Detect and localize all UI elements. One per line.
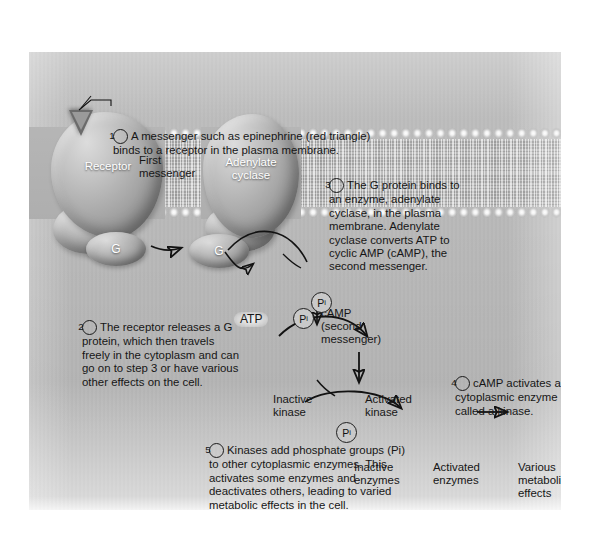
step-text-2: The receptor releases a G protein, which… bbox=[82, 321, 239, 387]
phosphate-subscript-1: i bbox=[306, 314, 308, 323]
phosphate-letter-1: P bbox=[299, 313, 306, 325]
step-number-1: 1 bbox=[113, 129, 128, 144]
first-messenger-label: First messenger bbox=[139, 154, 195, 180]
inactive-kinase-label: Inactive kinase bbox=[273, 393, 312, 419]
figure-canvas: Receptor Adenylate cyclase G G bbox=[0, 0, 597, 560]
phosphate-token-2: Pi bbox=[311, 292, 332, 313]
step-callout-1: 1A messenger such as epinephrine (red tr… bbox=[96, 116, 381, 158]
step-text-5: Kinases add phosphate groups (Pi) to oth… bbox=[209, 444, 405, 510]
various-metabolic-effects-label: Various metabolic effects bbox=[518, 461, 561, 501]
phosphate-token-1: Pi bbox=[293, 308, 314, 329]
step-callout-3: 3The G protein binds to an enzyme, adeny… bbox=[312, 165, 461, 274]
camp-label: cAMP (second messenger) bbox=[321, 307, 381, 347]
leader-step1 bbox=[81, 96, 91, 108]
arrow-g-to-adenylate bbox=[283, 254, 301, 268]
step-callout-4: 4cAMP activates a cytoplasmic enzyme cal… bbox=[438, 363, 561, 418]
phosphate-letter-2: P bbox=[317, 297, 324, 309]
step-text-3: The G protein binds to an enzyme, adenyl… bbox=[329, 179, 460, 272]
step-number-5: 5 bbox=[209, 443, 224, 458]
diagram-plate: Receptor Adenylate cyclase G G bbox=[29, 52, 561, 510]
step-text-1: A messenger such as epinephrine (red tri… bbox=[113, 130, 370, 156]
activated-kinase-label: Activated kinase bbox=[365, 393, 412, 419]
step-text-4: cAMP activates a cytoplasmic enzyme call… bbox=[455, 377, 561, 416]
arrow-atp-to-camp bbox=[228, 231, 307, 262]
arrow-atp-to-pi bbox=[225, 252, 253, 268]
step-callout-2: 2The receptor releases a G protein, whic… bbox=[65, 307, 244, 389]
activated-enzymes-label: Activated enzymes bbox=[433, 461, 480, 487]
step-number-4: 4 bbox=[455, 376, 470, 391]
arrow-g-protein-migration bbox=[151, 246, 181, 250]
step-number-3: 3 bbox=[329, 178, 344, 193]
step-number-2: 2 bbox=[82, 320, 97, 335]
phosphate-subscript-2: i bbox=[324, 298, 326, 307]
step-callout-5: 5Kinases add phosphate groups (Pi) to ot… bbox=[192, 430, 409, 510]
